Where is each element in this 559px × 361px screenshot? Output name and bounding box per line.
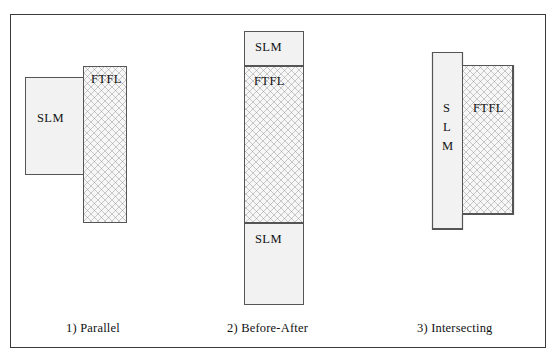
panel2-slm-box-top: SLM <box>244 31 304 66</box>
panel1-ftfl-label: FTFL <box>91 72 122 86</box>
panel3-ftfl-box <box>462 65 513 214</box>
panel3-slm-letter-s: S <box>443 101 450 115</box>
panel2-slm-bottom-label: SLM <box>255 232 282 246</box>
panel2-slm-box-bottom: SLM <box>244 223 304 305</box>
panel3-ftfl-label: FTFL <box>473 101 504 115</box>
panel2-ftfl-label: FTFL <box>254 74 285 88</box>
panel1-slm-box: SLM <box>25 77 84 175</box>
panel1-ftfl-box: FTFL <box>83 66 127 223</box>
panel2-slm-top-label: SLM <box>255 40 282 54</box>
panel2-ftfl-box: FTFL <box>244 66 304 223</box>
panel3-caption: 3) Intersecting <box>417 321 493 336</box>
panel3-slm-letter-m: M <box>442 139 454 153</box>
panel2-caption: 2) Before-After <box>227 321 308 336</box>
panel1-slm-label: SLM <box>37 111 64 125</box>
panel3-slm-letter-l: L <box>443 120 451 134</box>
figure-frame: SLM FTFL 1) Parallel SLM FTFL SLM 2) Bef… <box>10 14 546 348</box>
panel1-caption: 1) Parallel <box>66 321 120 336</box>
